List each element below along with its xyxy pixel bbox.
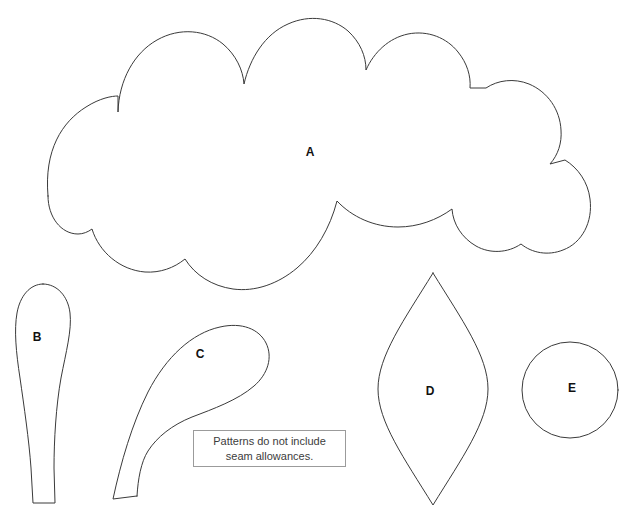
pattern-piece-a[interactable] (47, 18, 590, 289)
pattern-piece-b[interactable] (16, 284, 71, 503)
pattern-piece-c[interactable] (113, 325, 269, 499)
piece-label-a: A (306, 145, 315, 159)
note-line-1: Patterns do not include (213, 434, 326, 448)
pattern-sheet: A B C D E Patterns do not include seam a… (0, 0, 628, 521)
piece-label-e: E (568, 381, 576, 395)
seam-allowance-note: Patterns do not include seam allowances. (193, 430, 346, 467)
piece-label-c: C (196, 347, 205, 361)
piece-label-b: B (33, 330, 42, 344)
note-line-2: seam allowances. (226, 449, 313, 463)
piece-label-d: D (426, 384, 435, 398)
